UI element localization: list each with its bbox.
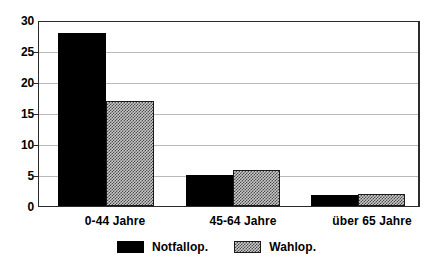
y-tick-label-25: 25 xyxy=(0,47,34,57)
y-tick-label-20: 20 xyxy=(0,78,34,88)
bar-wahlop-45-64 xyxy=(233,170,280,206)
legend-entry-notfallop: Notfallop. xyxy=(117,240,208,254)
category-label-45-64: 45-64 Jahre xyxy=(185,214,301,228)
y-tick-label-10: 10 xyxy=(0,140,34,150)
y-tick-label-30: 30 xyxy=(0,16,34,26)
legend-label-wahlop: Wahlop. xyxy=(269,240,316,254)
y-tick-label-0: 0 xyxy=(0,202,34,212)
category-label-0-44: 0-44 Jahre xyxy=(57,214,173,228)
bar-notfallop-45-64 xyxy=(186,175,233,206)
bar-notfallop-0-44 xyxy=(58,33,106,206)
plot-area xyxy=(38,21,420,207)
y-tick-label-15: 15 xyxy=(0,109,34,119)
legend-swatch-icon-notfallop xyxy=(117,241,144,253)
legend-label-notfallop: Notfallop. xyxy=(152,240,208,254)
y-axis: 30 25 20 15 10 5 0 xyxy=(0,0,34,264)
legend: Notfallop. Wahlop. xyxy=(0,240,433,254)
category-label-ueber-65: über 65 Jahre xyxy=(312,214,432,228)
legend-swatch-icon-wahlop xyxy=(234,241,261,253)
bar-wahlop-0-44 xyxy=(106,101,154,206)
bar-wahlop-ueber-65 xyxy=(358,194,405,206)
y-tick-label-5: 5 xyxy=(0,171,34,181)
legend-entry-wahlop: Wahlop. xyxy=(234,240,316,254)
bar-notfallop-ueber-65 xyxy=(311,195,358,206)
bar-chart: 30 25 20 15 10 5 0 0-44 Jahre 45-64 Jahr… xyxy=(0,0,433,264)
